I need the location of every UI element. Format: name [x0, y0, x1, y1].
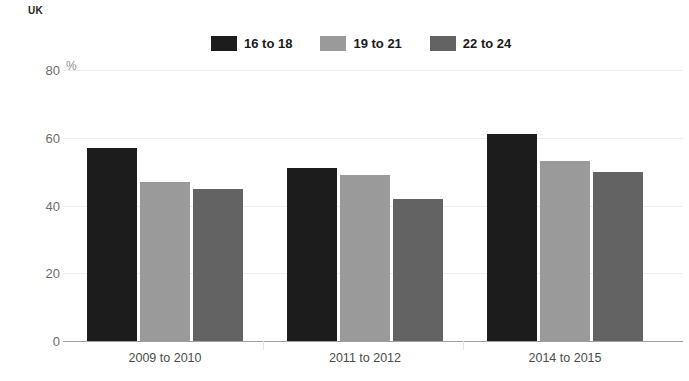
category-label-2009-to-2010: 2009 to 2010 [129, 351, 202, 365]
category-separator [463, 341, 464, 350]
bar-16-to-18-2011-to-2012 [287, 168, 337, 341]
bar-22-to-24-2009-to-2010 [193, 189, 243, 341]
bar-16-to-18-2009-to-2010 [87, 148, 137, 341]
bar-19-to-21-2011-to-2012 [340, 175, 390, 341]
bar-chart-plot: % 020406080 2009 to 20102011 to 20122014… [0, 0, 689, 381]
bar-16-to-18-2014-to-2015 [487, 134, 537, 341]
category-label-2014-to-2015: 2014 to 2015 [529, 351, 602, 365]
bar-19-to-21-2009-to-2010 [140, 182, 190, 341]
bars-layer [0, 0, 689, 381]
bar-19-to-21-2014-to-2015 [540, 161, 590, 341]
bar-22-to-24-2011-to-2012 [393, 199, 443, 341]
category-separator [263, 341, 264, 350]
bar-22-to-24-2014-to-2015 [593, 172, 643, 341]
category-label-2011-to-2012: 2011 to 2012 [329, 351, 401, 365]
